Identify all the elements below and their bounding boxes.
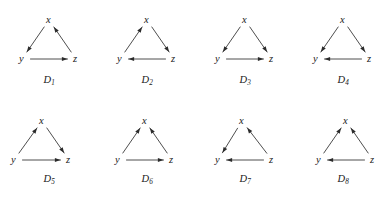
arrowhead-z-to-x bbox=[150, 128, 155, 134]
arrowhead-x-to-y bbox=[321, 46, 326, 52]
arrowhead-z-to-x bbox=[351, 128, 356, 134]
arrowhead-y-to-x bbox=[135, 128, 140, 134]
digraph-caption-d1: D1 bbox=[0, 74, 98, 85]
vertex-label-z: z bbox=[367, 54, 371, 65]
digraph-caption-d4: D4 bbox=[294, 74, 392, 85]
arrowhead-y-to-x bbox=[336, 128, 341, 134]
vertex-label-x: x bbox=[46, 15, 51, 26]
digraph-caption-d5: D5 bbox=[0, 173, 98, 184]
arrowhead-x-to-y bbox=[223, 46, 228, 52]
vertex-label-x: x bbox=[340, 15, 345, 26]
digraph-d2: xyzD2 bbox=[98, 4, 196, 101]
vertex-label-x: x bbox=[142, 116, 147, 127]
caption-subscript: 4 bbox=[345, 79, 349, 87]
arrowhead-y-to-z bbox=[62, 57, 68, 61]
vertex-label-z: z bbox=[269, 155, 273, 166]
digraph-caption-d7: D7 bbox=[196, 173, 294, 184]
vertex-label-z: z bbox=[370, 155, 374, 166]
digraph-row-bottom: xyzD5xyzD6xyzD7xyzD8 bbox=[0, 103, 392, 201]
digraph-d7: xyzD7 bbox=[196, 103, 294, 200]
arrowhead-z-to-y bbox=[328, 158, 334, 162]
caption-subscript: 3 bbox=[247, 79, 251, 87]
vertex-label-z: z bbox=[269, 54, 273, 65]
vertex-label-y: y bbox=[215, 155, 220, 166]
arrowhead-z-to-y bbox=[129, 57, 135, 61]
arrowhead-x-to-z bbox=[59, 147, 64, 153]
digraph-edges-canvas bbox=[98, 103, 196, 173]
digraph-d8: xyzD8 bbox=[294, 103, 392, 200]
arrowhead-z-to-y bbox=[227, 158, 233, 162]
caption-subscript: 2 bbox=[149, 79, 153, 87]
digraph-caption-d8: D8 bbox=[294, 173, 392, 184]
arrowhead-y-to-z bbox=[158, 158, 164, 162]
vertex-label-z: z bbox=[169, 155, 173, 166]
digraph-figure-sheet: xyzD1xyzD2xyzD3xyzD4 xyzD5xyzD6xyzD7xyzD… bbox=[0, 0, 392, 203]
vertex-label-y: y bbox=[115, 155, 120, 166]
vertex-label-y: y bbox=[117, 54, 122, 65]
arrowhead-y-to-x bbox=[32, 128, 37, 134]
arrowhead-z-to-y bbox=[325, 57, 331, 61]
digraph-caption-d3: D3 bbox=[196, 74, 294, 85]
caption-subscript: 8 bbox=[345, 178, 349, 186]
arrowhead-x-to-y bbox=[222, 147, 227, 153]
arrowhead-y-to-x bbox=[137, 27, 142, 33]
vertex-label-y: y bbox=[313, 54, 318, 65]
digraph-row-top: xyzD1xyzD2xyzD3xyzD4 bbox=[0, 4, 392, 101]
vertex-label-x: x bbox=[144, 15, 149, 26]
caption-letter: D bbox=[43, 74, 51, 85]
vertex-label-y: y bbox=[19, 54, 24, 65]
caption-letter: D bbox=[141, 74, 149, 85]
vertex-label-x: x bbox=[242, 15, 247, 26]
caption-letter: D bbox=[337, 74, 345, 85]
arrowhead-y-to-z bbox=[258, 57, 264, 61]
vertex-label-z: z bbox=[66, 155, 70, 166]
arrowhead-x-to-z bbox=[360, 46, 365, 52]
arrowhead-z-to-x bbox=[54, 27, 59, 33]
caption-subscript: 7 bbox=[247, 178, 251, 186]
vertex-label-y: y bbox=[215, 54, 220, 65]
vertex-label-y: y bbox=[316, 155, 321, 166]
caption-letter: D bbox=[141, 173, 149, 184]
digraph-d5: xyzD5 bbox=[0, 103, 98, 200]
arrowhead-x-to-z bbox=[164, 46, 169, 52]
caption-subscript: 6 bbox=[149, 178, 153, 186]
arrowhead-y-to-z bbox=[55, 158, 61, 162]
arrowhead-x-to-z bbox=[262, 46, 267, 52]
digraph-d3: xyzD3 bbox=[196, 4, 294, 101]
vertex-label-z: z bbox=[73, 54, 77, 65]
digraph-d4: xyzD4 bbox=[294, 4, 392, 101]
vertex-label-z: z bbox=[171, 54, 175, 65]
digraph-edges-canvas bbox=[294, 103, 392, 173]
vertex-label-x: x bbox=[343, 116, 348, 127]
caption-letter: D bbox=[43, 173, 51, 184]
vertex-label-x: x bbox=[239, 116, 244, 127]
digraph-edges-canvas bbox=[196, 103, 294, 173]
caption-letter: D bbox=[239, 74, 247, 85]
arrowhead-x-to-y bbox=[27, 46, 32, 52]
digraph-caption-d6: D6 bbox=[98, 173, 196, 184]
caption-subscript: 1 bbox=[51, 79, 55, 87]
caption-letter: D bbox=[337, 173, 345, 184]
caption-letter: D bbox=[239, 173, 247, 184]
vertex-label-y: y bbox=[11, 155, 16, 166]
digraph-d1: xyzD1 bbox=[0, 4, 98, 101]
arrowhead-z-to-x bbox=[247, 128, 252, 134]
digraph-caption-d2: D2 bbox=[98, 74, 196, 85]
digraph-d6: xyzD6 bbox=[98, 103, 196, 200]
caption-subscript: 5 bbox=[51, 178, 55, 186]
vertex-label-x: x bbox=[39, 116, 44, 127]
